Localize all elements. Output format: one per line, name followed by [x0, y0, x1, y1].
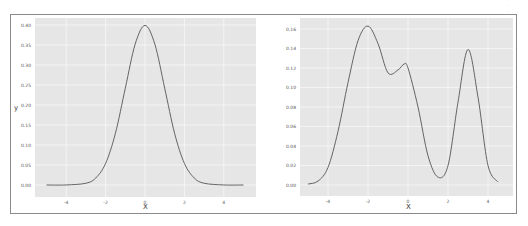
y-tick-label: 0.06 — [286, 124, 296, 129]
x-tick-label: 2 — [447, 199, 450, 204]
y-tick-label: 0.00 — [21, 183, 31, 188]
y-tick-label: 0.40 — [21, 23, 31, 28]
y-tick-label: 0.00 — [286, 183, 296, 188]
x-tick-label: 2 — [183, 200, 186, 205]
y-tick-label: 0.12 — [286, 66, 296, 71]
x-tick-label: -2 — [366, 199, 371, 204]
y-tick-label: 0.14 — [286, 46, 296, 51]
right-y-tick-labels: 0.000.020.040.060.080.100.120.140.16 — [286, 27, 296, 188]
right-x-axis-label: X — [406, 203, 411, 211]
y-tick-label: 0.35 — [21, 43, 31, 48]
y-tick-label: 0.05 — [21, 163, 31, 168]
right-chart: 0.000.020.040.060.080.100.120.140.16 -4-… — [286, 18, 513, 211]
y-tick-label: 0.15 — [21, 123, 31, 128]
x-tick-label: 4 — [487, 199, 490, 204]
x-tick-label: -4 — [64, 200, 69, 205]
y-tick-label: 0.04 — [286, 144, 296, 149]
y-tick-label: 0.02 — [286, 163, 296, 168]
y-tick-label: 0.16 — [286, 27, 296, 32]
x-tick-label: -4 — [326, 199, 331, 204]
y-tick-label: 0.10 — [286, 85, 296, 90]
y-tick-label: 0.08 — [286, 105, 296, 110]
y-tick-label: 0.20 — [21, 103, 31, 108]
left-y-tick-labels: 0.000.050.100.150.200.250.300.350.40 — [21, 23, 31, 188]
left-y-axis-label: y — [14, 104, 18, 112]
y-tick-label: 0.25 — [21, 83, 31, 88]
y-tick-label: 0.10 — [21, 143, 31, 148]
x-tick-label: 4 — [222, 200, 225, 205]
left-x-axis-label: X — [143, 203, 148, 211]
left-chart: 0.000.050.100.150.200.250.300.350.40 -4-… — [14, 18, 256, 211]
y-tick-label: 0.30 — [21, 63, 31, 68]
x-tick-label: -2 — [103, 200, 108, 205]
charts-svg: 0.000.050.100.150.200.250.300.350.40 -4-… — [0, 0, 528, 226]
